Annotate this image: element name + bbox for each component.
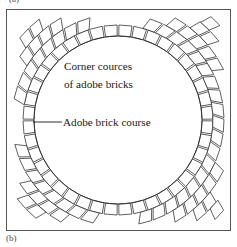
adobe-wall-diagram: Corner cources of adobe bricks Adobe bri… [0,0,237,247]
adobe-brick [104,203,117,215]
adobe-brick-course-label: Adobe brick course [63,116,151,128]
adobe-brick [23,121,35,134]
adobe-brick [23,106,35,119]
corner-courses-label-line1: Corner cources [64,60,132,72]
adobe-brick [201,106,213,119]
adobe-brick [201,121,213,134]
adobe-brick [119,203,132,215]
corner-courses-label-line2: of adobe bricks [64,78,133,90]
adobe-brick [119,25,132,37]
adobe-brick [104,25,117,37]
